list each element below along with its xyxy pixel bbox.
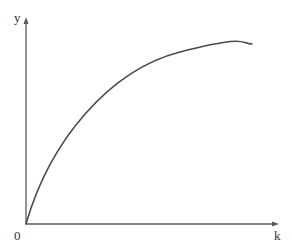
y-axis-label: y	[14, 11, 21, 24]
y-axis-arrow-icon	[24, 17, 29, 24]
diagram-canvas	[0, 0, 292, 250]
function-curve	[26, 41, 252, 224]
origin-label: 0	[14, 229, 21, 242]
x-axis-label: k	[274, 229, 281, 242]
x-axis-arrow-icon	[272, 222, 279, 227]
